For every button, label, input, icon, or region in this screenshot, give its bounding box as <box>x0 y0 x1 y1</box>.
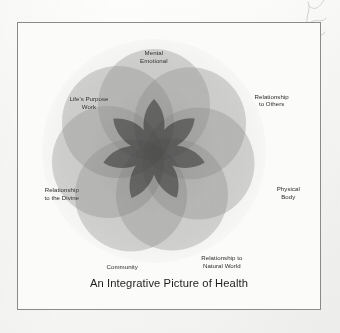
figure-frame: Mental Emotional Relationship to Others … <box>17 22 321 310</box>
label-relationship-to-the-divine: Relationship to the Divine <box>45 186 80 202</box>
label-mental-emotional: Mental Emotional <box>140 49 168 65</box>
label-relationship-to-natural-world: Relationship to Natural World <box>201 254 242 270</box>
venn-rosette-diagram: Mental Emotional Relationship to Others … <box>18 23 320 273</box>
label-physical-body: Physical Body <box>277 185 300 201</box>
label-community: Community <box>107 263 138 271</box>
venn-rosette-svg <box>18 23 320 273</box>
label-lifes-purpose-work: Life's Purpose Work <box>69 95 108 111</box>
figure-caption: An Integrative Picture of Health <box>18 277 320 289</box>
bloom-shading <box>42 39 266 263</box>
label-relationship-to-others: Relationship to Others <box>255 93 289 109</box>
